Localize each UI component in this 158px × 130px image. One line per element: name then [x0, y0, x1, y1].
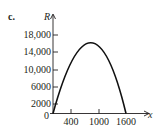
revenue-curve: [53, 43, 126, 114]
chart-plot: [0, 0, 158, 130]
